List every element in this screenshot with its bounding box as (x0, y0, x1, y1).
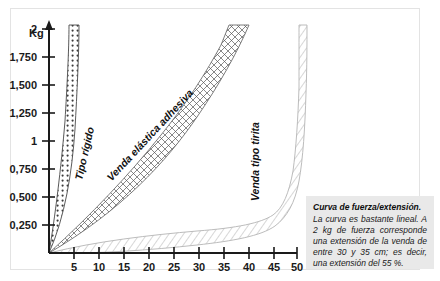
y-axis (45, 20, 53, 253)
y-tick-label: 1,500 (0, 79, 37, 91)
caption-panel: Curva de fuerza/extensión. La curva es b… (306, 196, 434, 269)
y-tick-label: 0,500 (0, 191, 37, 203)
curve-label-venda-tipo-tirita: Venda tipo tirita (249, 122, 261, 201)
y-tick-label: 1,250 (0, 107, 37, 119)
y-tick-label: 1,750 (0, 51, 37, 63)
band-tipo-rigido (49, 25, 79, 253)
y-tick-label: 2 (0, 23, 37, 35)
y-tick-label: 0,250 (0, 219, 37, 231)
y-tick-label: 1 (0, 135, 37, 147)
y-tick-label: 0,750 (0, 163, 37, 175)
force-extension-figure: Kg 0,250 0,500 0,750 1 1,250 1,500 1,750… (0, 0, 440, 281)
caption-body: La curva es bastante lineal. A 2 kg de f… (313, 214, 427, 269)
caption-title: Curva de fuerza/extensión. (313, 202, 427, 213)
